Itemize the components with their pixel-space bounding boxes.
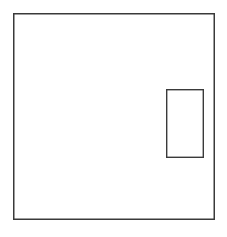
nested-rectangles-figure [0,0,227,237]
outer-rectangle [14,14,215,220]
inner-rectangle [167,90,204,158]
diagram-canvas [0,0,227,237]
